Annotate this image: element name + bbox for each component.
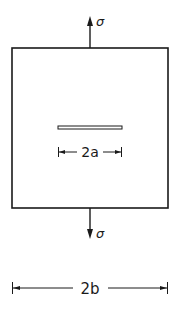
stress-label-top: σ xyxy=(96,14,105,29)
crack-length-label: 2a xyxy=(81,144,99,160)
arrow-right-icon xyxy=(160,286,167,290)
crack xyxy=(58,126,122,129)
stress-label-bottom: σ xyxy=(96,226,105,241)
top-stress-arrow xyxy=(87,16,93,48)
cracked-plate-diagram: σ 2a σ 2b xyxy=(0,0,178,311)
arrow-left-icon xyxy=(13,286,20,290)
arrow-right-icon xyxy=(115,150,121,154)
arrow-left-icon xyxy=(59,150,65,154)
arrow-up-icon xyxy=(87,16,93,26)
plate-width-label: 2b xyxy=(80,280,99,298)
arrow-down-icon xyxy=(87,229,93,239)
bottom-stress-arrow xyxy=(87,208,93,239)
